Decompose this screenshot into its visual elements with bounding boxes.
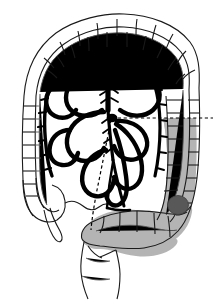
rectum-top-fold [100,250,116,257]
rectum-crease-lower [82,276,110,280]
arcade-loop-left-4 [50,130,78,165]
rectum-crease-upper [86,258,110,262]
rectum [81,242,120,299]
rectum-right-wall [116,250,120,299]
sigmoid-arcade-terminal [107,208,130,210]
appendix-outline [44,208,62,242]
tumor-nodule [168,196,189,215]
rectum-left-wall [81,242,88,299]
figure-root: Colon with inferior mesenteric arterial … [0,0,214,301]
cecum-inner-outline [36,178,59,212]
tumor-nodule-shape [168,196,189,215]
transverse-colon [24,14,199,96]
colon-anatomical-diagram [0,0,214,301]
ascending-colon-outer-wall [22,96,33,216]
